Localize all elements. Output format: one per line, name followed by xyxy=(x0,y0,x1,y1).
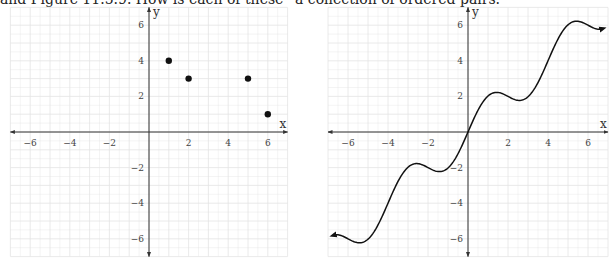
y-tick-label: −6 xyxy=(450,234,464,244)
data-point xyxy=(265,111,271,117)
y-tick-label: −6 xyxy=(131,234,145,244)
x-tick-label: −4 xyxy=(381,138,395,148)
data-point xyxy=(245,75,251,81)
y-tick-label: 2 xyxy=(138,91,144,101)
y-tick-label: 2 xyxy=(457,91,463,101)
y-tick-label: 4 xyxy=(138,56,144,66)
x-tick-label: −2 xyxy=(103,138,116,148)
y-axis-label: y xyxy=(471,5,479,19)
x-axis-label: x xyxy=(280,117,287,131)
x-tick-label: 2 xyxy=(186,138,192,148)
data-point xyxy=(166,58,172,64)
y-tick-label: 6 xyxy=(138,20,144,30)
x-tick-label: −6 xyxy=(24,138,38,148)
x-tick-label: 2 xyxy=(505,138,511,148)
x-tick-label: 6 xyxy=(265,138,271,148)
y-tick-label: −4 xyxy=(131,198,145,208)
x-tick-label: 6 xyxy=(585,138,591,148)
data-point xyxy=(185,75,191,81)
x-tick-label: −4 xyxy=(63,138,77,148)
y-tick-label: 4 xyxy=(457,56,463,66)
scatter-plot: −6−4−2246−6−4−2246xy xyxy=(10,5,287,256)
curve-plot: −6−4−2246−6−4−2246xy xyxy=(328,5,608,256)
x-tick-label: −6 xyxy=(341,138,355,148)
figures: −6−4−2246−6−4−2246xy−6−4−2246−6−4−2246xy xyxy=(0,0,613,270)
x-axis-label: x xyxy=(600,117,607,131)
x-tick-label: −2 xyxy=(421,138,434,148)
y-axis-label: y xyxy=(152,5,160,19)
y-tick-label: 6 xyxy=(457,20,463,30)
x-tick-label: 4 xyxy=(225,138,231,148)
y-tick-label: −4 xyxy=(450,198,464,208)
x-tick-label: 4 xyxy=(545,138,551,148)
y-tick-label: −2 xyxy=(131,163,144,173)
